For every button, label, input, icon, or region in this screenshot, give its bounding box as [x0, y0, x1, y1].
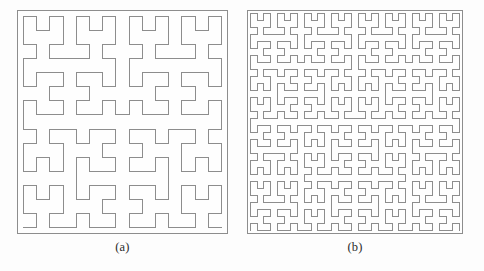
- figure-hilbert-curves: (a) (b): [0, 0, 484, 271]
- panel-b: [247, 10, 463, 234]
- panel-a: [17, 10, 228, 234]
- panel-a-caption: (a): [17, 240, 228, 255]
- panel-b-caption: (b): [247, 240, 463, 255]
- panel-b-hilbert-curve: [247, 10, 463, 234]
- panel-a-hilbert-curve: [17, 10, 228, 234]
